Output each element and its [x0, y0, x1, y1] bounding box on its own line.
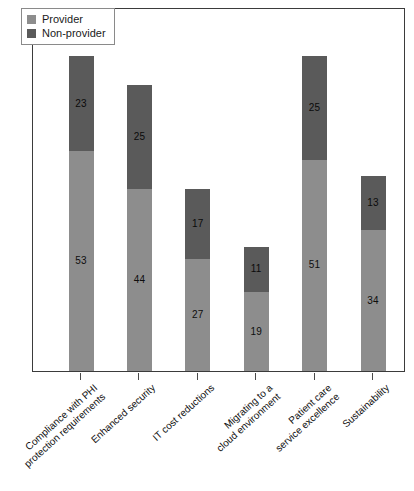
legend-swatch-icon: [27, 15, 36, 24]
bar-segment-provider: 27: [185, 259, 210, 371]
bar-value-label: 27: [192, 310, 204, 320]
bar-value-label: 11: [251, 264, 262, 274]
bar-value-label: 25: [134, 132, 146, 142]
bar-segment-provider: 19: [244, 292, 269, 371]
plot-area: 235325441727111925511334: [33, 9, 404, 371]
bar-segment-non-provider: 17: [185, 189, 210, 259]
bar-segment-provider: 53: [69, 151, 94, 371]
legend-item-non-provider: Non-provider: [27, 26, 106, 40]
x-axis-tick: [80, 373, 81, 380]
bar-value-label: 34: [367, 296, 379, 306]
bar-segment-non-provider: 11: [244, 247, 269, 293]
x-axis-tick: [255, 373, 256, 380]
x-axis-tick: [197, 373, 198, 380]
bar-segment-non-provider: 25: [302, 56, 327, 160]
bar-segment-non-provider: 25: [127, 85, 152, 189]
legend-item-label: Non-provider: [42, 28, 106, 39]
bar-value-label: 13: [367, 198, 379, 208]
bar-group: 2544: [127, 85, 152, 371]
legend-item-provider: Provider: [27, 12, 106, 26]
bar-value-label: 51: [309, 260, 321, 270]
bar-value-label: 53: [75, 256, 87, 266]
bar-value-label: 44: [134, 275, 146, 285]
bar-segment-provider: 34: [361, 230, 386, 371]
bar-segment-non-provider: 23: [69, 56, 94, 151]
x-axis-tick: [372, 373, 373, 380]
bar-value-label: 23: [75, 99, 87, 109]
bar-group: 2551: [302, 56, 327, 371]
legend-swatch-icon: [27, 29, 36, 38]
bar-segment-non-provider: 13: [361, 176, 386, 230]
bar-value-label: 25: [309, 103, 321, 113]
bar-group: 1334: [361, 176, 386, 371]
bar-group: 2353: [69, 56, 94, 371]
chart-legend: ProviderNon-provider: [21, 8, 115, 45]
x-axis-label: IT cost reductions: [97, 382, 216, 491]
legend-item-label: Provider: [42, 14, 83, 25]
x-axis-tick: [138, 373, 139, 380]
bar-segment-provider: 44: [127, 189, 152, 371]
bar-value-label: 19: [250, 327, 262, 337]
x-axis-tick: [314, 373, 315, 380]
bar-group: 1727: [185, 189, 210, 371]
plot-frame: 235325441727111925511334: [32, 8, 405, 372]
bar-group: 1119: [244, 247, 269, 371]
bar-value-label: 17: [192, 219, 204, 229]
bar-segment-provider: 51: [302, 160, 327, 371]
